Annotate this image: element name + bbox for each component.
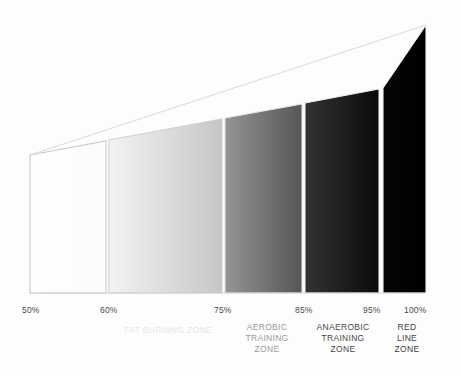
x-tick-95: 95% xyxy=(363,305,381,315)
zone-label-red-line: RED LINE ZONE xyxy=(384,322,430,355)
heart-rate-zone-chart: 50% 60% 75% 85% 95% 100% FAT BURNING ZON… xyxy=(0,0,462,377)
x-tick-75: 75% xyxy=(214,305,232,315)
zone-label-fat-burning: FAT BURNING ZONE xyxy=(110,325,226,336)
x-tick-100: 100% xyxy=(404,305,427,315)
x-tick-85: 85% xyxy=(295,305,313,315)
x-tick-50: 50% xyxy=(22,305,40,315)
x-tick-60: 60% xyxy=(100,305,118,315)
x-axis: 50% 60% 75% 85% 95% 100% FAT BURNING ZON… xyxy=(0,0,462,377)
zone-label-aerobic-training: AEROBIC TRAINING ZONE xyxy=(232,322,302,355)
zone-label-anaerobic-training: ANAEROBIC TRAINING ZONE xyxy=(303,322,383,355)
